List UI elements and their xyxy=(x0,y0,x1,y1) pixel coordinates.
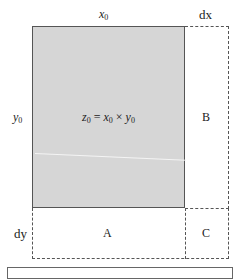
label-dx: dx xyxy=(199,8,212,21)
formula-z0: z0 = x0 × y0 xyxy=(82,111,135,125)
label-dy: dy xyxy=(14,227,27,240)
label-y0: y0 xyxy=(13,111,22,125)
region-a-c-outline xyxy=(32,208,229,259)
region-c-label: C xyxy=(202,227,210,239)
region-b-c-divider xyxy=(185,208,229,209)
region-b-label: B xyxy=(202,111,210,123)
label-x0: x0 xyxy=(99,8,108,22)
region-a-c-divider xyxy=(185,208,186,259)
region-a-label: A xyxy=(103,227,112,239)
caption-frame-edge xyxy=(7,267,233,279)
